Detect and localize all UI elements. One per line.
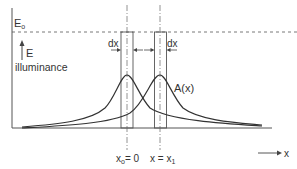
a-of-x-label: A(x) [174,82,194,94]
illuminance-label: illuminance [15,61,68,73]
x1-label: x = x1 [150,153,175,165]
curve-at-x0 [22,75,262,127]
dx-left-label: dx [108,38,119,49]
curve-at-x1-A [22,75,262,128]
x-axis-label: x [284,148,289,159]
x-direction-arrowhead-icon [277,151,282,156]
e-label: E [26,47,33,59]
e0-label: Eo [14,17,25,30]
dx-left-arrowhead-out-icon [133,48,137,52]
x0-label: xo= 0 [116,153,140,165]
illuminance-diagram: Eo E illuminance dx dx A(x) x [0,0,297,169]
dx-right-arrowhead-in-icon [151,48,155,52]
e-arrow-head-icon [20,40,25,46]
dx-right-label: dx [167,38,178,49]
